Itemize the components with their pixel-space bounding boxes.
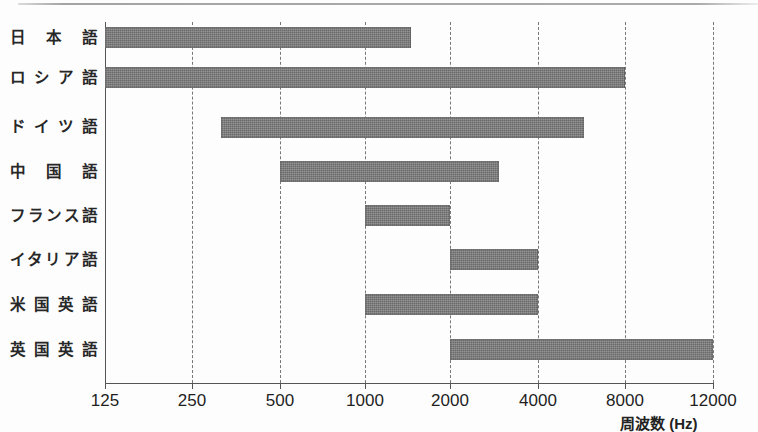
frequency-range-chart: 日本語 ロシア語 ドイツ語 中国語 フランス語 イタリア語 米国英語 英国英語 … [0,0,758,432]
bar-us-english [365,294,538,315]
bar-italian [450,249,538,270]
category-label-us-english: 米国英語 [10,297,98,313]
xtick-mark-2000 [450,383,451,389]
bar-russian [105,67,625,88]
category-label-german: ドイツ語 [10,119,98,135]
category-label-italian: イタリア語 [10,252,98,268]
xtick-mark-250 [192,383,193,389]
category-label-japanese: 日本語 [10,30,98,46]
bar-japanese [105,27,411,48]
xtick-mark-125 [105,383,106,389]
xtick-label-2000: 2000 [431,391,469,411]
xtick-label-12000: 12000 [689,391,736,411]
category-label-russian: ロシア語 [10,70,98,86]
category-label-uk-english: 英国英語 [10,342,98,358]
xtick-label-8000: 8000 [606,391,644,411]
bar-uk-english [450,339,713,360]
chart-screenshot: 日本語 ロシア語 ドイツ語 中国語 フランス語 イタリア語 米国英語 英国英語 … [0,0,758,432]
xtick-label-250: 250 [178,391,206,411]
xtick-label-500: 500 [266,391,294,411]
bar-german [221,117,584,138]
xtick-mark-12000 [713,383,714,389]
xtick-label-1000: 1000 [346,391,384,411]
xtick-mark-500 [280,383,281,389]
gridline-12000 [713,22,714,383]
bar-french [365,205,450,226]
x-axis-title: 周波数 (Hz) [620,412,698,432]
xtick-mark-8000 [625,383,626,389]
bar-chinese [280,161,499,182]
category-label-french: フランス語 [10,208,98,224]
x-axis-line [105,383,713,384]
xtick-mark-1000 [365,383,366,389]
gridline-8000 [625,22,626,383]
xtick-label-125: 125 [91,391,119,411]
xtick-label-4000: 4000 [519,391,557,411]
xtick-mark-4000 [538,383,539,389]
category-label-chinese: 中国語 [10,164,98,180]
